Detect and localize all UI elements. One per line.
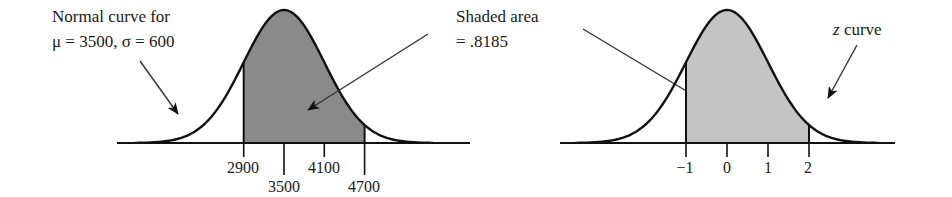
z-curve-label: z curve: [832, 20, 882, 39]
right-tick-label-2: 2: [804, 159, 812, 176]
shaded-area-annotation: Shaded area = .8185: [308, 7, 713, 110]
left-tick-label-2900: 2900: [227, 159, 259, 176]
left-annotation-line1: Normal curve for: [52, 7, 170, 26]
normal-curve-figure: 2900 3500 4100 4700 Normal curve for μ =…: [0, 0, 952, 197]
left-tick-label-4100: 4100: [308, 159, 340, 176]
z-curve-arrow: [828, 45, 857, 98]
shaded-area-label: Shaded area: [456, 7, 539, 26]
left-tick-label-3500: 3500: [268, 178, 300, 195]
right-tick-marks: [686, 143, 809, 157]
shaded-area-value: = .8185: [456, 32, 508, 51]
right-tick-label-0: 0: [723, 159, 731, 176]
left-tick-label-4700: 4700: [348, 178, 380, 195]
left-annotation-line2: μ = 3500, σ = 600: [52, 32, 174, 51]
left-tick-marks: [244, 143, 365, 175]
right-tick-label-neg1: −1: [676, 159, 693, 176]
left-annotation-arrow: [140, 61, 178, 114]
right-z-panel: −1 0 1 2 z curve: [560, 10, 895, 176]
z-curve-word: curve: [840, 20, 882, 39]
right-tick-label-1: 1: [764, 159, 772, 176]
left-normal-panel: 2900 3500 4100 4700 Normal curve for μ =…: [52, 7, 470, 195]
